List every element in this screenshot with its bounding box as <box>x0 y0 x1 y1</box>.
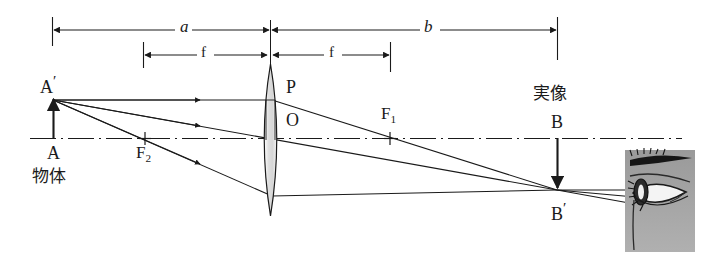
ray-center <box>53 100 557 190</box>
ray-focal-arrowhead <box>53 100 200 164</box>
label-lens-center-O: O <box>286 111 299 129</box>
label-object-base-A: A <box>47 144 60 162</box>
ray-center-arrowhead <box>53 100 200 126</box>
focus-marker-F1 <box>384 132 396 145</box>
label-F1-subscript: 1 <box>390 113 396 125</box>
label-image-cjk: 実像 <box>533 85 567 102</box>
ray-focal <box>53 100 557 196</box>
label-focal-length-right: f <box>329 45 334 60</box>
label-F2-subscript: 2 <box>145 152 151 164</box>
label-focus-F1: F1 <box>381 105 396 126</box>
ray-parallel-refracted <box>272 100 557 190</box>
label-B-prime-mark: ′ <box>563 199 566 216</box>
label-object-cjk: 物体 <box>32 168 66 185</box>
label-object-tip-A-prime: A′ <box>40 73 56 96</box>
label-focal-length-left: f <box>201 45 206 60</box>
label-image-distance-b: b <box>424 18 433 35</box>
label-focus-F2: F2 <box>136 144 151 165</box>
label-A-prime-letter: A <box>40 77 53 97</box>
label-lens-top-P: P <box>286 78 296 96</box>
label-image-tip-B-prime: B′ <box>551 200 566 223</box>
ray-focal-refracted <box>272 190 557 196</box>
label-image-base-B: B <box>551 113 563 131</box>
label-B-prime-letter: B <box>551 204 563 224</box>
dimension-a <box>53 17 270 46</box>
eye-illustration <box>625 148 695 252</box>
optics-ray-diagram: a b f f A′ A 物体 F2 F1 P O 実像 B B′ <box>0 0 705 259</box>
label-object-distance-a: a <box>180 18 189 35</box>
label-A-prime-mark: ′ <box>53 72 56 89</box>
pupil-highlight <box>638 185 644 200</box>
dimension-b <box>272 17 558 60</box>
ray-diagram-canvas <box>0 0 705 259</box>
